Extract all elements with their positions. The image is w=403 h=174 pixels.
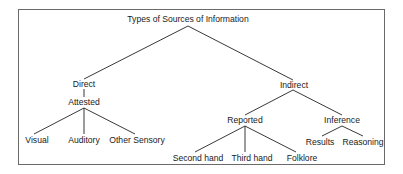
node-attested: Attested bbox=[68, 97, 100, 107]
node-root: Types of Sources of Information bbox=[127, 14, 248, 24]
node-direct: Direct bbox=[73, 79, 95, 89]
node-reported: Reported bbox=[227, 115, 262, 125]
tree-edges bbox=[0, 0, 403, 174]
tree-edge bbox=[342, 126, 363, 136]
node-other-sensory: Other Sensory bbox=[109, 135, 164, 145]
node-results: Results bbox=[306, 137, 335, 147]
node-indirect: Indirect bbox=[280, 80, 308, 90]
tree-edge bbox=[245, 90, 293, 115]
node-auditory: Auditory bbox=[68, 135, 100, 145]
node-folklore: Folklore bbox=[287, 153, 318, 163]
node-reasoning: Reasoning bbox=[342, 137, 383, 147]
tree-edge bbox=[322, 126, 342, 136]
node-inference: Inference bbox=[324, 115, 360, 125]
tree-edge bbox=[195, 126, 245, 152]
tree-edge bbox=[188, 26, 293, 80]
node-visual: Visual bbox=[25, 135, 48, 145]
tree-edge bbox=[245, 126, 296, 152]
node-third-hand: Third hand bbox=[231, 153, 272, 163]
tree-edge bbox=[293, 90, 342, 115]
node-second-hand: Second hand bbox=[173, 153, 224, 163]
tree-edge bbox=[34, 108, 84, 134]
tree-edge bbox=[84, 26, 188, 79]
tree-edge bbox=[84, 108, 135, 134]
